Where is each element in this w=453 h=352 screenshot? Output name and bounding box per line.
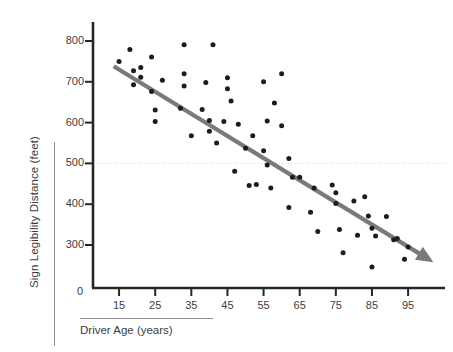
data-point bbox=[127, 47, 132, 52]
y-tick-label: 300 bbox=[52, 238, 84, 250]
data-point bbox=[153, 107, 158, 112]
data-point bbox=[308, 210, 313, 215]
data-point bbox=[384, 214, 389, 219]
trendline bbox=[114, 66, 423, 255]
data-point bbox=[265, 118, 270, 123]
data-point bbox=[261, 148, 266, 153]
data-point bbox=[178, 106, 183, 111]
data-point bbox=[337, 227, 342, 232]
data-point bbox=[312, 185, 317, 190]
x-tick-label: 35 bbox=[176, 299, 206, 311]
x-tick-label: 15 bbox=[104, 299, 134, 311]
data-point bbox=[254, 182, 259, 187]
data-point bbox=[279, 71, 284, 76]
data-point bbox=[243, 146, 248, 151]
data-point bbox=[333, 201, 338, 206]
x-tick-label: 75 bbox=[321, 299, 351, 311]
data-point bbox=[250, 133, 255, 138]
data-point bbox=[351, 198, 356, 203]
scatter-plot-figure: Sign Legibility Distance (feet) Driver A… bbox=[0, 0, 453, 352]
data-point bbox=[214, 141, 219, 146]
data-point bbox=[229, 98, 234, 103]
data-point bbox=[236, 122, 241, 127]
data-point bbox=[138, 65, 143, 70]
data-point bbox=[203, 80, 208, 85]
data-point bbox=[225, 86, 230, 91]
data-point bbox=[207, 118, 212, 123]
data-point bbox=[232, 169, 237, 174]
x-tick-label: 25 bbox=[140, 299, 170, 311]
data-point bbox=[200, 107, 205, 112]
data-point bbox=[330, 183, 335, 188]
data-point bbox=[211, 42, 216, 47]
data-point bbox=[290, 175, 295, 180]
data-point bbox=[272, 101, 277, 106]
data-point bbox=[297, 175, 302, 180]
data-point bbox=[207, 129, 212, 134]
x-tick-label: 95 bbox=[393, 299, 423, 311]
data-point bbox=[355, 233, 360, 238]
y-tick-label: 600 bbox=[52, 116, 84, 128]
data-point bbox=[265, 163, 270, 168]
data-point bbox=[131, 68, 136, 73]
data-point bbox=[221, 119, 226, 124]
data-point bbox=[138, 75, 143, 80]
data-point bbox=[395, 236, 400, 241]
data-point bbox=[131, 82, 136, 87]
data-point bbox=[369, 265, 374, 270]
data-point bbox=[279, 123, 284, 128]
data-point bbox=[286, 156, 291, 161]
y-tick-label: 400 bbox=[52, 197, 84, 209]
data-point bbox=[406, 245, 411, 250]
data-point bbox=[160, 78, 165, 83]
y-tick-label: 500 bbox=[52, 156, 84, 168]
data-point bbox=[149, 89, 154, 94]
data-point bbox=[333, 190, 338, 195]
data-point bbox=[189, 133, 194, 138]
trendline-group bbox=[114, 66, 434, 262]
data-point bbox=[366, 214, 371, 219]
data-point bbox=[402, 257, 407, 262]
data-point bbox=[182, 71, 187, 76]
data-point bbox=[153, 119, 158, 124]
data-point bbox=[261, 79, 266, 84]
data-point bbox=[225, 75, 230, 80]
data-point bbox=[373, 234, 378, 239]
data-point bbox=[117, 59, 122, 64]
data-point bbox=[362, 194, 367, 199]
data-point bbox=[268, 185, 273, 190]
data-point bbox=[182, 42, 187, 47]
data-point bbox=[182, 83, 187, 88]
x-tick-label: 65 bbox=[285, 299, 315, 311]
y-tick-label: 800 bbox=[52, 34, 84, 46]
data-point bbox=[315, 229, 320, 234]
y-tick-label: 700 bbox=[52, 75, 84, 87]
x-tick-label: 45 bbox=[212, 299, 242, 311]
data-point bbox=[341, 250, 346, 255]
data-point bbox=[149, 54, 154, 59]
data-point bbox=[369, 226, 374, 231]
x-tick-label: 85 bbox=[357, 299, 387, 311]
x-tick-label: 55 bbox=[249, 299, 279, 311]
data-point bbox=[286, 205, 291, 210]
data-point bbox=[247, 183, 252, 188]
